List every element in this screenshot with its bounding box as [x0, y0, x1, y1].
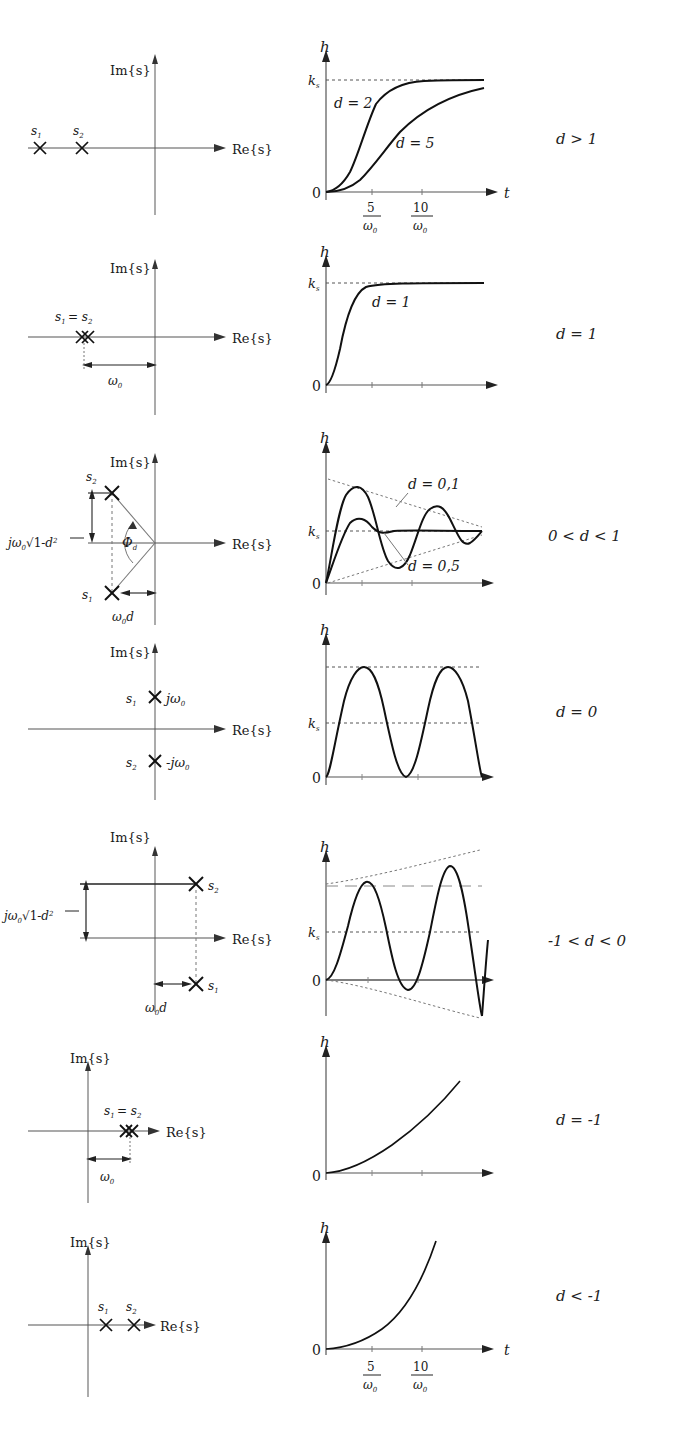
ks-label: ks [308, 925, 320, 942]
tick-label-1: 5 ω0 [363, 1360, 381, 1394]
row-underdamped: Im{s} Re{s} Φd s2 s1 jω0√1-d2 [0, 435, 686, 635]
real-axis-arrow [214, 144, 226, 152]
pole-zero-plot-underdamped: Im{s} Re{s} Φd s2 s1 jω0√1-d2 [0, 435, 320, 635]
row-negatively-damped: Im{s} Re{s} s2 jω0√1-d2 s1 [0, 820, 686, 1020]
leader-line-d01 [396, 493, 408, 507]
step-response-undamped: h ks 0 [300, 625, 550, 805]
step-response-critical: h ks 0 d = 1 [300, 245, 550, 420]
sr-svg-3: h ks 0 d = 0,1 d = 0,5 [300, 435, 550, 635]
t-axis-arrow [482, 579, 494, 587]
real-axis-arrow [214, 539, 226, 547]
omega0-dimension [82, 362, 157, 368]
pole-label-s2: s2 [208, 879, 219, 895]
row-undamped: Im{s} Re{s} s1 jω0 s2 -jω0 h ks 0 [0, 625, 686, 805]
real-axis-label: Re{s} [232, 932, 273, 947]
pole-marker-s1 [105, 586, 119, 600]
imag-axis-label: Im{s} [70, 1051, 111, 1066]
imag-axis-label: Im{s} [110, 455, 151, 470]
zero-label: 0 [312, 770, 321, 786]
real-axis-label: Re{s} [232, 723, 273, 738]
real-axis-label: Re{s} [166, 1125, 207, 1140]
t-axis-arrow [486, 188, 498, 196]
tick-2-den: ω0 [413, 1378, 428, 1394]
damped-freq-label: jω0√1-d2 [1, 909, 54, 925]
real-axis-arrow [144, 1321, 156, 1329]
pole-label-s1: s1 [98, 1300, 109, 1316]
zero-label: 0 [312, 185, 321, 201]
imag-axis-arrow [152, 259, 158, 269]
condition-label-overdamped: d > 1 [556, 130, 686, 148]
ks-label: ks [308, 276, 320, 293]
tick-2-den: ω0 [413, 219, 428, 235]
curve-label-d05: d = 0,5 [408, 558, 460, 574]
envelope-upper [326, 850, 480, 884]
omega0d-label: ω0d [145, 1001, 167, 1017]
sr-svg-1: h t ks 0 5 ω0 10 ω0 d = 2 d = 5 [300, 40, 550, 225]
sr-svg-7: h t 0 5 ω0 10 ω0 [300, 1225, 550, 1425]
row-critically-damped: Im{s} Re{s} s1 = s2 ω0 h ks 0 [0, 245, 686, 420]
condition-label-underdamped: 0 < d < 1 [548, 527, 686, 545]
t-axis-arrow [482, 1345, 494, 1353]
pole-value-s2: -jω0 [166, 755, 190, 772]
real-axis-label: Re{s} [232, 331, 273, 346]
omega0-label: ω0 [108, 374, 123, 390]
real-axis-arrow [214, 333, 226, 341]
real-axis-arrow [148, 1127, 160, 1135]
step-response-underdamped: h ks 0 d = 0,1 d = 0,5 [300, 435, 550, 635]
h-axis-label: h [320, 1219, 330, 1237]
curve-label-d01: d = 0,1 [408, 476, 460, 492]
condition-label-neg-overdamped: d < -1 [556, 1287, 686, 1305]
pz-svg-5: Im{s} Re{s} s2 jω0√1-d2 s1 [0, 820, 320, 1020]
sr-svg-4: h ks 0 [300, 625, 550, 805]
pole-value-s1: jω0 [163, 691, 186, 708]
condition-label-neg-damped: -1 < d < 0 [548, 932, 686, 950]
pole-label-s2: s2 [86, 470, 97, 486]
phi-d-label: Φd [122, 535, 138, 552]
ks-label: ks [308, 524, 320, 541]
imag-axis-arrow [152, 846, 158, 856]
omega0-label: ω0 [100, 1170, 115, 1186]
real-axis-label: Re{s} [232, 142, 273, 157]
condition-label-neg-critical: d = -1 [556, 1111, 686, 1129]
imag-axis-label: Im{s} [110, 830, 151, 845]
t-axis-arrow [482, 773, 494, 781]
pole-label-s1: s1 [82, 588, 93, 604]
imag-axis-arrow [152, 54, 158, 64]
tick-1-num: 5 [367, 201, 375, 215]
pole-label-s1: s1 [208, 979, 219, 995]
response-curve-dneg1 [326, 1081, 460, 1173]
pole-zero-plot-neg-damped: Im{s} Re{s} s2 jω0√1-d2 s1 [0, 820, 320, 1020]
pole-label-s1: s1 [126, 692, 137, 708]
response-curve-negd [326, 866, 482, 1016]
omega0-dimension [86, 1156, 132, 1162]
h-axis-label: h [320, 243, 330, 261]
imag-axis-arrow [152, 643, 158, 653]
omega0d-dimension [153, 981, 192, 987]
zero-label: 0 [312, 1342, 321, 1358]
tick-label-1: 5 ω0 [363, 201, 381, 235]
t-axis-label: t [504, 185, 510, 201]
curve-label-d2: d = 2 [334, 95, 373, 111]
pz-svg-7: Im{s} Re{s} s1 s2 [0, 1225, 320, 1425]
imag-axis-label: Im{s} [110, 645, 151, 660]
sr-svg-2: h ks 0 d = 1 [300, 245, 550, 420]
sr-svg-6: h 0 [300, 1035, 550, 1210]
imag-axis-label: Im{s} [110, 261, 151, 276]
pz-svg-3: Im{s} Re{s} Φd s2 s1 jω0√1-d2 [0, 435, 320, 635]
pz-svg-4: Im{s} Re{s} s1 jω0 s2 -jω0 [0, 625, 320, 805]
step-response-neg-critical: h 0 [300, 1035, 550, 1210]
imag-axis-label: Im{s} [70, 1235, 111, 1250]
pole-zero-plot-critical: Im{s} Re{s} s1 = s2 ω0 [0, 245, 320, 420]
ks-label: ks [308, 716, 320, 733]
row-neg-overdamped: Im{s} Re{s} s1 s2 h t 0 5 ω [0, 1225, 686, 1425]
row-neg-critically-damped: Im{s} Re{s} s1 = s2 ω0 h 0 [0, 1035, 686, 1210]
step-response-neg-damped: h ks 0 [300, 820, 550, 1020]
zero-label: 0 [312, 576, 321, 592]
pole-label-s2: s2 [126, 756, 137, 772]
pole-label-s1-eq-s2: s1 = s2 [55, 310, 93, 326]
pole-label-s2: s2 [126, 1300, 137, 1316]
ks-label: ks [308, 73, 320, 90]
tick-label-2: 10 ω0 [411, 201, 433, 235]
tick-1-den: ω0 [363, 1378, 378, 1394]
tick-label-2: 10 ω0 [411, 1360, 433, 1394]
